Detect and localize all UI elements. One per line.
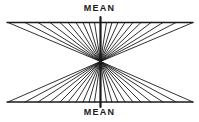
fan-diagram-canvas (0, 0, 199, 122)
fan-line (101, 62, 194, 103)
fan-line (50, 62, 101, 103)
fan-line (101, 23, 194, 62)
fan-line (101, 62, 177, 103)
fan-line (25, 23, 101, 62)
fan-line (25, 62, 101, 103)
fan-line (50, 23, 101, 62)
fan-line (8, 62, 101, 103)
bottom-mean-label: MEAN (0, 108, 199, 117)
regression-to-mean-diagram: MEAN MEAN (0, 0, 199, 122)
fan-line (101, 23, 152, 62)
fan-line (101, 62, 152, 103)
fan-line (8, 23, 101, 62)
fan-line (101, 23, 177, 62)
